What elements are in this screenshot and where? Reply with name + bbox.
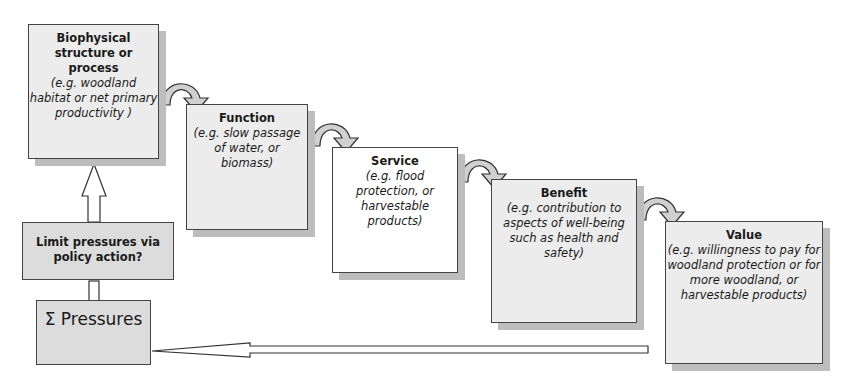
value-box: Value (e.g. willingness to pay for woodl…	[665, 221, 823, 364]
function-box: Function (e.g. slow passage of water, or…	[186, 104, 308, 230]
biophysical-desc: (e.g. woodland habitat or net primary pr…	[29, 76, 158, 121]
value-title: Value	[666, 228, 822, 243]
benefit-box: Benefit (e.g. contribution to aspects of…	[491, 179, 637, 323]
function-title: Function	[187, 111, 307, 126]
connector-bar	[89, 281, 99, 301]
service-box: Service (e.g. flood protection, or harve…	[332, 147, 458, 273]
service-title: Service	[333, 154, 457, 169]
value-desc: (e.g. willingness to pay for woodland pr…	[666, 243, 822, 303]
benefit-desc: (e.g. contribution to aspects of well-be…	[492, 201, 636, 261]
pressures-title: Σ Pressures	[45, 309, 143, 329]
biophysical-title: Biophysical structure or process	[29, 31, 158, 76]
pressures-box: Σ Pressures	[36, 300, 151, 365]
policy-box: Limit pressures via policy action?	[22, 222, 174, 280]
up-arrow-icon	[82, 164, 106, 222]
left-arrow-icon	[152, 343, 648, 357]
service-desc: (e.g. flood protection, or harvestable p…	[333, 169, 457, 229]
function-desc: (e.g. slow passage of water, or biomass)	[187, 126, 307, 171]
biophysical-box: Biophysical structure or process (e.g. w…	[28, 24, 159, 159]
benefit-title: Benefit	[492, 186, 636, 201]
policy-title: Limit pressures via policy action?	[23, 235, 173, 265]
